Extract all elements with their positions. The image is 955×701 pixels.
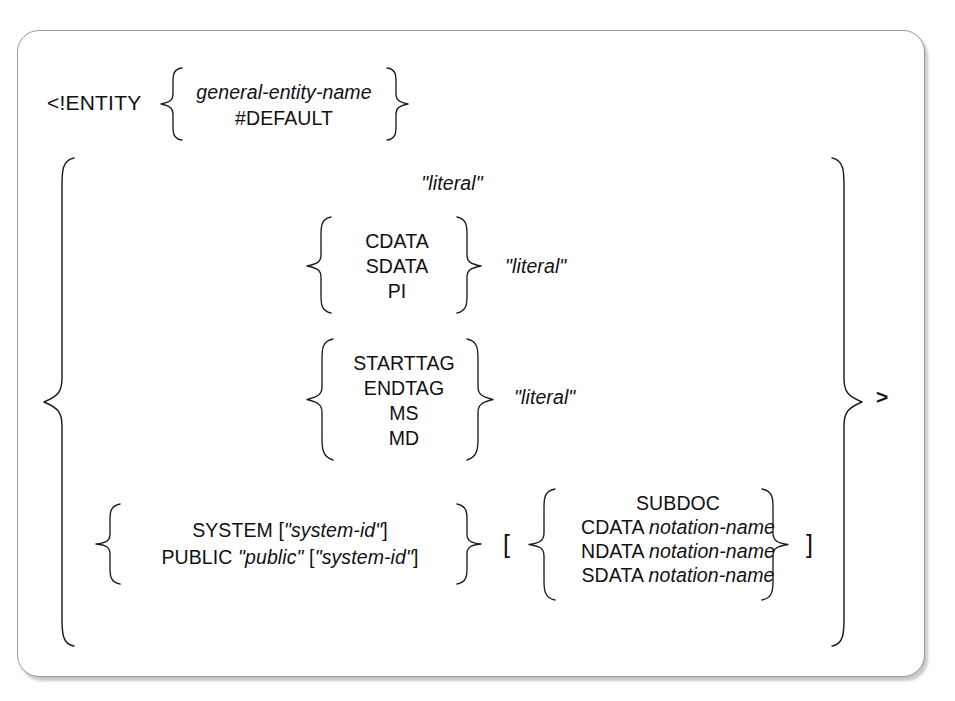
name-option-1: #DEFAULT: [235, 109, 333, 129]
entity-terminator: >: [876, 386, 888, 407]
data-type-option-2-part-0: NDATA: [581, 540, 649, 562]
data-type-option-1-part-0: CDATA: [581, 516, 649, 538]
external-id-option-1: PUBLIC "public" ["system-id"]: [161, 548, 418, 568]
value-group-right-brace: [828, 156, 868, 648]
data-type-option-1: CDATA notation-name: [581, 518, 775, 538]
data-type-left-brace: [525, 487, 557, 602]
data-text-right-brace: [455, 215, 485, 315]
data-type-option-3-part-1: notation-name: [649, 564, 775, 586]
data-type-close-bracket: ]: [806, 532, 813, 557]
external-id-option-0-part-0: SYSTEM: [192, 519, 278, 541]
data-type-option-3-part-0: SDATA: [581, 564, 648, 586]
external-id-option-1-part-4: ]: [413, 546, 419, 568]
entity-keyword: <!ENTITY: [47, 92, 141, 113]
external-id-right-brace: [455, 502, 485, 586]
value-group-left-brace: [40, 156, 76, 648]
external-id-option-0-part-2: "system-id": [284, 519, 382, 541]
bracketed-text-option-0: STARTTAG: [353, 354, 455, 374]
external-id-option-1-part-0: PUBLIC: [161, 546, 238, 568]
data-type-right-brace: [760, 487, 792, 602]
data-type-option-2: NDATA notation-name: [581, 542, 775, 562]
bracketed-text-right-brace: [465, 337, 497, 462]
bracketed-text-left-brace: [303, 337, 335, 462]
external-id-option-1-part-1: "public": [238, 546, 304, 568]
data-type-option-3: SDATA notation-name: [581, 566, 774, 586]
bracketed-text-option-2: MS: [389, 404, 418, 424]
name-option-0: general-entity-name: [196, 83, 371, 103]
alternative-plain-literal: "literal": [421, 174, 482, 194]
external-id-option-0-part-3: ]: [382, 519, 388, 541]
external-id-option-0: SYSTEM ["system-id"]: [192, 521, 388, 541]
data-text-option-1: SDATA: [366, 257, 429, 277]
bracketed-text-literal: "literal": [514, 388, 575, 408]
data-text-option-2: PI: [388, 282, 407, 302]
external-id-option-1-part-3: "system-id": [315, 546, 413, 568]
external-id-option-1-part-2: [: [304, 546, 315, 568]
data-type-option-0-part-0: SUBDOC: [636, 492, 720, 514]
data-type-option-0: SUBDOC: [636, 494, 720, 514]
syntax-diagram: <!ENTITY general-entity-name #DEFAULT > …: [0, 0, 955, 701]
data-type-option-2-part-1: notation-name: [649, 540, 775, 562]
data-type-option-1-part-1: notation-name: [649, 516, 775, 538]
data-text-option-0: CDATA: [365, 232, 429, 252]
name-group-right-brace: [385, 66, 411, 142]
data-text-left-brace: [303, 215, 333, 315]
external-id-left-brace: [92, 502, 122, 586]
name-group-left-brace: [158, 66, 184, 142]
bracketed-text-option-1: ENDTAG: [364, 379, 444, 399]
data-text-literal: "literal": [505, 257, 566, 277]
data-type-open-bracket: [: [503, 532, 510, 557]
bracketed-text-option-3: MD: [389, 429, 420, 449]
